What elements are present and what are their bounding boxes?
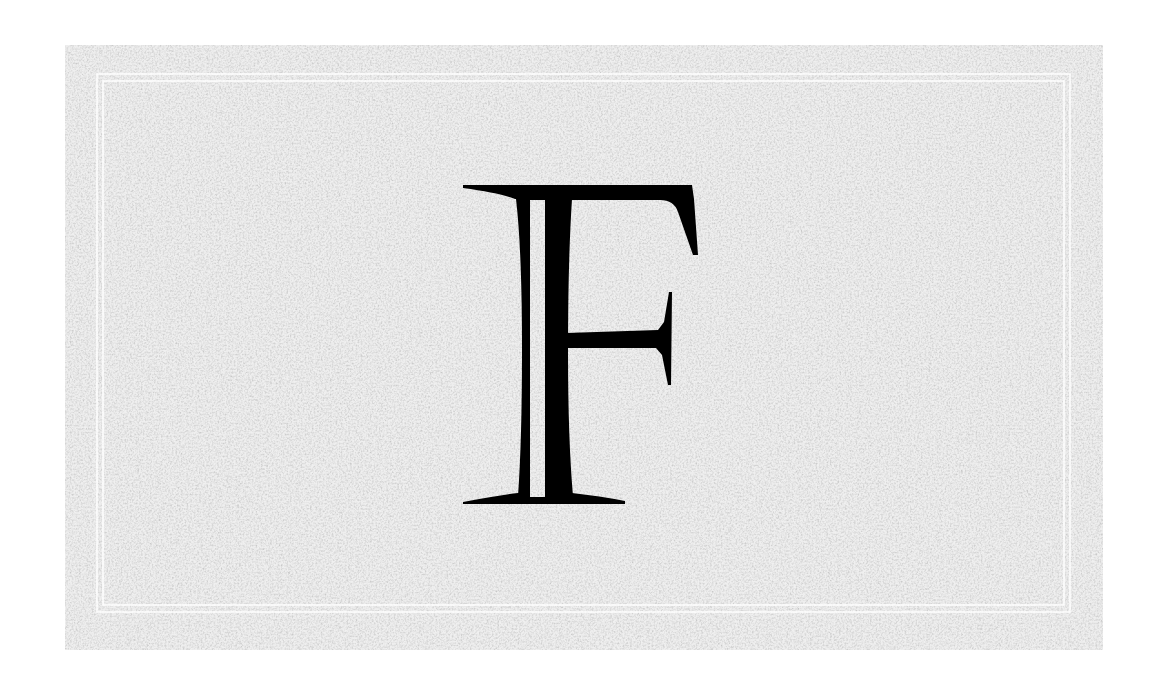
textured-card [65,45,1103,650]
letter-label: F [0,0,1,1]
letter-card-stage: F [0,0,1155,679]
double-frame [65,45,1103,650]
